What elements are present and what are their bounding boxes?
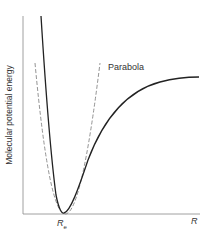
parabola-label: Parabola bbox=[108, 62, 144, 72]
x-axis-label: R bbox=[191, 216, 198, 226]
potential-energy-diagram bbox=[0, 0, 206, 235]
parabola-curve bbox=[35, 63, 100, 214]
y-axis-label: Molecular potential energy bbox=[4, 60, 14, 170]
equilibrium-label-sub: e bbox=[64, 224, 67, 230]
equilibrium-label: Re bbox=[57, 218, 67, 230]
morse-potential-curve bbox=[41, 16, 199, 213]
